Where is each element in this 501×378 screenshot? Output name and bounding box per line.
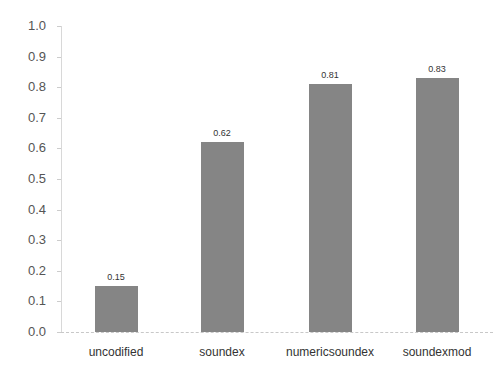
y-tick-label: 0.0 [6,324,46,339]
y-tick-mark [57,179,61,180]
y-tick-label: 0.2 [6,263,46,278]
x-category-label: soundexmod [377,345,497,359]
y-tick-mark [57,118,61,119]
y-tick-mark [57,332,61,333]
bar-uncodified [95,286,138,332]
y-axis-line [61,26,62,332]
y-tick-label: 0.7 [6,110,46,125]
y-tick-label: 0.3 [6,232,46,247]
y-tick-label: 0.8 [6,79,46,94]
y-tick-mark [57,210,61,211]
x-axis-line [61,332,493,334]
y-tick-label: 0.9 [6,49,46,64]
y-tick-mark [57,148,61,149]
y-tick-mark [57,240,61,241]
x-category-label: soundex [162,345,282,359]
y-tick-label: 0.1 [6,293,46,308]
bar-soundexmod [416,78,459,332]
data-label: 0.83 [407,64,467,74]
data-label: 0.81 [300,70,360,80]
bar-numericsoundex [309,84,352,332]
y-tick-mark [57,271,61,272]
y-tick-label: 0.4 [6,202,46,217]
x-category-label: uncodified [56,345,176,359]
y-tick-label: 1.0 [6,18,46,33]
y-tick-mark [57,301,61,302]
x-category-label: numericsoundex [270,345,390,359]
y-tick-label: 0.5 [6,171,46,186]
bar-soundex [201,142,244,332]
y-tick-mark [57,26,61,27]
y-tick-label: 0.6 [6,140,46,155]
y-tick-mark [57,57,61,58]
y-tick-mark [57,87,61,88]
data-label: 0.62 [192,128,252,138]
data-label: 0.15 [86,272,146,282]
